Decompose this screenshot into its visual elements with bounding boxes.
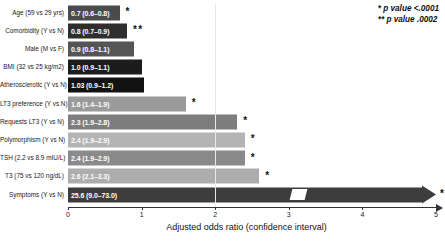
value-bar: 2.4 (1.9–2.9) — [68, 132, 245, 147]
axis-tick-label: 1 — [140, 211, 144, 218]
significance-marker: ** — [133, 25, 144, 36]
bar-value-label: 0.7 (0.6–0.8) — [68, 9, 109, 16]
bar-container: 1.6 (1.4–1.9)* — [68, 96, 186, 111]
bar-container: 1.03 (0.9–1.2) — [68, 78, 144, 93]
axis-tick-label: 0 — [66, 211, 70, 218]
chart-row: Symptoms (Y vs N)25.6 (9.0–73.0)* — [0, 186, 443, 203]
category-label: Polymorphism (Y vs N) — [0, 136, 64, 143]
bar-container: 2.6 (2.1–3.3)* — [68, 169, 259, 184]
axis-tick — [436, 207, 437, 210]
value-bar: 25.6 (9.0–73.0) — [68, 187, 422, 202]
value-bar: 2.3 (1.9–2.8) — [68, 114, 237, 129]
chart-row: TSH (2.2 vs 8.9 mIU/L)2.4 (1.9–2.9)* — [0, 150, 443, 167]
axis-tick — [289, 207, 290, 210]
bar-value-label: 2.6 (2.1–3.3) — [68, 173, 109, 180]
value-bar: 2.6 (2.1–3.3) — [68, 169, 259, 184]
chart-row: BMI (32 vs 25 kg/m2)1.0 (0.9–1.1) — [0, 59, 443, 76]
category-label: Male (M vs F) — [0, 45, 64, 52]
bar-arrowhead-icon — [422, 186, 436, 204]
chart-row: T3 (75 vs 120 ng/dL)2.6 (2.1–3.3)* — [0, 168, 443, 185]
bar-container: 2.4 (1.9–2.9)* — [68, 132, 245, 147]
value-bar: 0.7 (0.6–0.8) — [68, 5, 120, 20]
bar-value-label: 0.8 (0.7–0.9) — [68, 27, 109, 34]
axis-break-icon — [290, 189, 308, 200]
significance-marker: * — [265, 170, 270, 181]
bar-value-label: 1.03 (0.9–1.2) — [68, 82, 113, 89]
significance-marker: * — [440, 188, 445, 199]
bar-value-label: 2.4 (1.9–2.9) — [68, 155, 109, 162]
significance-marker: * — [251, 134, 256, 145]
chart-row: Atherosclerotic (Y vs N)1.03 (0.9–1.2) — [0, 77, 443, 94]
value-bar: 2.4 (1.9–2.9) — [68, 151, 245, 166]
bar-value-label: 1.0 (0.9–1.1) — [68, 64, 109, 71]
gridline — [215, 4, 216, 207]
bar-value-label: 2.3 (1.9–2.8) — [68, 118, 109, 125]
bar-container: 0.7 (0.6–0.8)* — [68, 5, 120, 20]
bar-value-label: 0.9 (0.8–1.1) — [68, 45, 109, 52]
axis-tick — [215, 207, 216, 210]
category-label: Symptoms (Y vs N) — [0, 191, 64, 198]
bar-container: 1.0 (0.9–1.1) — [68, 60, 142, 75]
significance-marker: * — [243, 116, 248, 127]
axis-tick-label: 3 — [287, 211, 291, 218]
bar-value-label: 25.6 (9.0–73.0) — [68, 191, 117, 198]
category-label: Comorbidity (Y vs N) — [0, 27, 64, 34]
bar-value-label: 2.4 (1.9–2.9) — [68, 136, 109, 143]
chart-row: Male (M vs F)0.9 (0.8–1.1) — [0, 40, 443, 57]
chart-row: Comorbidity (Y vs N)0.8 (0.7–0.9)** — [0, 22, 443, 39]
axis-tick — [142, 207, 143, 210]
x-axis: 012345 Adjusted odds ratio (confidence i… — [0, 207, 443, 242]
chart-row: Requests LT3 (Y vs N)2.3 (1.9–2.8)* — [0, 113, 443, 130]
axis-tick — [362, 207, 363, 210]
category-label: BMI (32 vs 25 kg/m2) — [0, 64, 64, 71]
bar-container: 2.4 (1.9–2.9)* — [68, 151, 245, 166]
bar-container: 25.6 (9.0–73.0)* — [68, 187, 422, 202]
bar-container: 0.8 (0.7–0.9)** — [68, 23, 127, 38]
chart-row: LT3 preference (Y vs N)1.6 (1.4–1.9)* — [0, 95, 443, 112]
significance-marker: * — [126, 6, 131, 17]
chart-row: Age (59 vs 29 yrs)0.7 (0.6–0.8)* — [0, 4, 443, 21]
category-label: T3 (75 vs 120 ng/dL) — [0, 173, 64, 180]
category-label: TSH (2.2 vs 8.9 mIU/L) — [0, 155, 64, 162]
category-label: LT3 preference (Y vs N) — [0, 100, 64, 107]
axis-line — [68, 207, 436, 208]
value-bar: 0.9 (0.8–1.1) — [68, 41, 134, 56]
axis-tick — [68, 207, 69, 210]
category-label: Age (59 vs 29 yrs) — [0, 9, 64, 16]
axis-tick-label: 2 — [213, 211, 217, 218]
value-bar: 1.6 (1.4–1.9) — [68, 96, 186, 111]
value-bar: 1.03 (0.9–1.2) — [68, 78, 144, 93]
bar-container: 2.3 (1.9–2.8)* — [68, 114, 237, 129]
significance-marker: * — [192, 97, 197, 108]
plot-area: Age (59 vs 29 yrs)0.7 (0.6–0.8)*Comorbid… — [0, 4, 443, 207]
category-label: Requests LT3 (Y vs N) — [0, 118, 64, 125]
value-bar: 0.8 (0.7–0.9) — [68, 23, 127, 38]
bar-container: 0.9 (0.8–1.1) — [68, 41, 134, 56]
significance-marker: * — [251, 152, 256, 163]
axis-title: Adjusted odds ratio (confidence interval… — [0, 222, 443, 232]
axis-tick-label: 5 — [434, 211, 438, 218]
value-bar: 1.0 (0.9–1.1) — [68, 60, 142, 75]
category-label: Atherosclerotic (Y vs N) — [0, 82, 64, 89]
bar-value-label: 1.6 (1.4–1.9) — [68, 100, 109, 107]
axis-tick-label: 4 — [360, 211, 364, 218]
chart-row: Polymorphism (Y vs N)2.4 (1.9–2.9)* — [0, 131, 443, 148]
